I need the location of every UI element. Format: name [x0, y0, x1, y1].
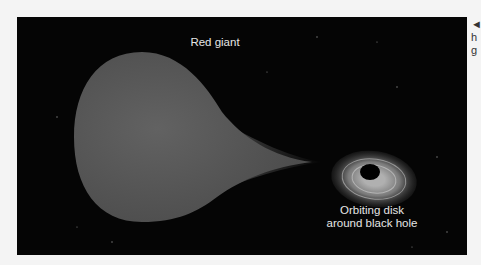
caption-fragment-2: g — [471, 44, 477, 57]
label-red-giant: Red giant — [170, 36, 260, 49]
label-orbiting-disk: Orbiting disk around black hole — [307, 204, 437, 230]
caption-arrow-icon: ◄ — [471, 18, 481, 31]
black-hole — [360, 164, 380, 180]
label-disk-line1: Orbiting disk — [307, 204, 437, 217]
label-disk-line2: around black hole — [307, 217, 437, 230]
red-giant-star — [74, 52, 312, 222]
illustration-frame: Red giant Orbiting disk around black hol… — [17, 17, 467, 255]
caption-fragment-1: h — [471, 31, 477, 44]
